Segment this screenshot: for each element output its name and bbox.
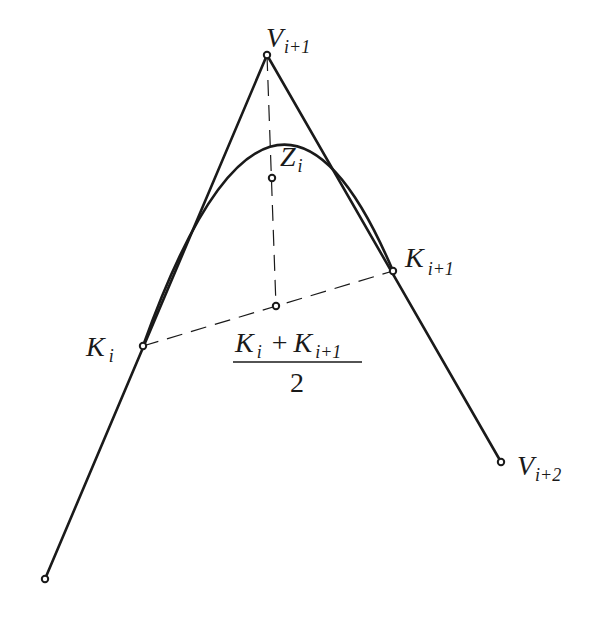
point-v-i2 [498,459,504,465]
midpoint-formula: Ki+Ki+1 2 [233,327,362,398]
label-k-i1: Ki+1 [404,242,454,279]
point-k-i1 [390,268,396,274]
label-v-i1: Vi+1 [266,22,310,57]
diagram-canvas: Vi+1 Zi Ki+1 Ki Vi+2 Ki+Ki+1 2 [0,0,603,623]
chord-dashed-line [143,271,393,346]
label-k-i: Ki [85,331,114,366]
formula-denominator: 2 [290,367,304,398]
point-midpoint [273,303,279,309]
label-v-i2: Vi+2 [517,450,561,485]
formula-numerator: Ki+Ki+1 [234,327,341,362]
curve-segment [143,145,393,346]
control-polygon [45,55,501,579]
point-z-i [269,175,275,181]
point-k-i [140,343,146,349]
point-v-i [42,576,48,582]
